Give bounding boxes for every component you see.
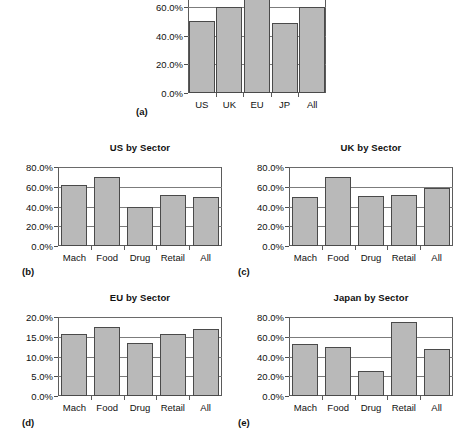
y-axis-tick	[285, 317, 289, 318]
bar	[325, 347, 351, 396]
bar	[127, 343, 153, 396]
x-axis-tick-label: Food	[96, 402, 118, 413]
y-axis-tick-label: 20.0%	[156, 59, 183, 70]
x-axis-tick	[189, 246, 190, 250]
x-axis-tick	[355, 396, 356, 400]
chart-title-e: Japan by Sector	[289, 292, 453, 303]
x-axis-tick-label: All	[200, 402, 211, 413]
bar	[193, 197, 219, 246]
y-axis-tick-label: 15.0%	[26, 331, 53, 342]
bar	[272, 23, 298, 93]
y-axis-tick	[285, 396, 289, 397]
panel-letter-a: (a)	[136, 106, 148, 117]
x-axis-tick	[387, 396, 388, 400]
bar	[94, 327, 120, 396]
bar	[391, 195, 417, 246]
y-axis-tick	[54, 246, 58, 247]
x-axis-tick-label: Mach	[294, 252, 317, 263]
bar	[61, 334, 87, 396]
bar	[358, 371, 384, 396]
chart-panel-d: EU by Sector 0.0%5.0%10.0%15.0%20.0% Mac…	[0, 292, 230, 417]
y-axis-tick-label: 60.0%	[257, 331, 284, 342]
bar	[94, 177, 120, 246]
x-axis-tick	[387, 246, 388, 250]
y-axis-tick	[54, 337, 58, 338]
y-axis-tick-label: 0.0%	[262, 241, 284, 252]
x-axis-tick-label: Retail	[392, 252, 416, 263]
bar	[216, 7, 242, 93]
panel-letter-c: (c)	[238, 266, 250, 277]
x-axis-tick-label: Retail	[392, 402, 416, 413]
y-axis-tick	[285, 226, 289, 227]
x-axis-tick-label: JP	[279, 99, 290, 110]
y-axis-tick	[184, 7, 188, 8]
bar	[127, 207, 153, 246]
x-axis-tick	[91, 396, 92, 400]
x-axis-tick-label: Drug	[361, 252, 382, 263]
y-axis-tick	[54, 357, 58, 358]
x-axis-tick	[189, 396, 190, 400]
x-axis-tick-label: Drug	[130, 252, 151, 263]
y-axis-tick	[54, 167, 58, 168]
bar	[189, 21, 215, 93]
figure-page: { "figure": { "panel_letters": ["(a)", "…	[0, 0, 461, 443]
x-axis-tick-label: Retail	[161, 402, 185, 413]
x-axis-tick-label: Food	[96, 252, 118, 263]
chart-panel-e: Japan by Sector 0.0%20.0%40.0%60.0%80.0%…	[231, 292, 461, 417]
bar	[193, 329, 219, 396]
x-axis-tick-label: Food	[327, 252, 349, 263]
y-axis-tick-label: 40.0%	[156, 30, 183, 41]
chart-title-c: UK by Sector	[289, 142, 453, 153]
y-axis-tick-label: 0.0%	[31, 241, 53, 252]
y-axis-tick	[184, 93, 188, 94]
y-axis-tick	[285, 207, 289, 208]
y-axis-tick	[54, 396, 58, 397]
x-axis-tick-label: US	[195, 99, 208, 110]
x-axis-tick	[156, 396, 157, 400]
y-axis-tick-label: 20.0%	[26, 221, 53, 232]
bar	[160, 195, 186, 246]
y-axis-tick	[285, 357, 289, 358]
y-axis-tick-label: 40.0%	[257, 201, 284, 212]
x-axis-tick-label: Drug	[361, 402, 382, 413]
x-axis-tick	[322, 396, 323, 400]
y-axis-tick-label: 20.0%	[26, 312, 53, 323]
y-axis-tick-label: 20.0%	[257, 371, 284, 382]
bar	[424, 349, 450, 396]
x-axis-tick-label: Retail	[161, 252, 185, 263]
y-axis-tick	[54, 187, 58, 188]
x-axis-tick	[420, 246, 421, 250]
y-axis-tick-label: 60.0%	[156, 1, 183, 12]
y-axis-tick-label: 40.0%	[257, 351, 284, 362]
x-axis-tick-label: All	[431, 252, 442, 263]
x-axis-tick-label: Food	[327, 402, 349, 413]
x-axis-tick	[271, 93, 272, 97]
x-axis-tick	[124, 246, 125, 250]
y-axis-tick-label: 80.0%	[26, 162, 53, 173]
y-axis-tick-label: 80.0%	[257, 312, 284, 323]
y-axis-tick-label: 40.0%	[26, 201, 53, 212]
chart-title-b: US by Sector	[58, 142, 222, 153]
y-axis-tick	[54, 317, 58, 318]
y-axis-tick-label: 0.0%	[262, 391, 284, 402]
x-axis-tick-label: All	[200, 252, 211, 263]
y-axis-tick	[184, 64, 188, 65]
x-axis-tick-label: Drug	[130, 402, 151, 413]
bar	[299, 7, 325, 93]
y-axis-tick-label: 0.0%	[161, 88, 183, 99]
y-axis-tick	[285, 167, 289, 168]
x-axis-tick	[91, 246, 92, 250]
bar	[325, 177, 351, 246]
panel-letter-b: (b)	[22, 266, 34, 277]
x-axis-tick	[298, 93, 299, 97]
y-axis-tick-label: 10.0%	[26, 351, 53, 362]
x-axis-tick-label: Mach	[63, 402, 86, 413]
y-axis-tick-label: 0.0%	[31, 391, 53, 402]
y-axis-tick	[54, 207, 58, 208]
bar	[61, 185, 87, 246]
y-axis-tick-label: 80.0%	[257, 162, 284, 173]
x-axis-tick-label: All	[431, 402, 442, 413]
chart-panel-a: 0.0%20.0%40.0%60.0%80.0% USUKEUJPAll	[128, 0, 333, 113]
y-axis-tick	[54, 226, 58, 227]
x-axis-tick-label: Mach	[63, 252, 86, 263]
